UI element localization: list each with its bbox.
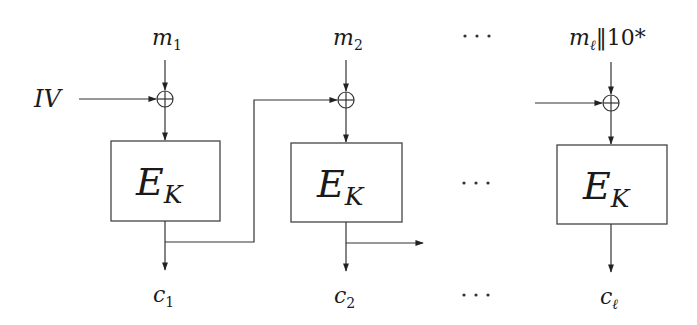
block-1: m1 IV EK c1 — [33, 25, 220, 310]
ellipsis-top — [463, 34, 490, 37]
block-2: m2 EK c2 — [291, 25, 402, 311]
input-label-1: m1 — [152, 25, 182, 53]
block-last: mℓ‖10* EK cℓ — [535, 25, 667, 312]
cbc-diagram: m1 IV EK c1 m2 EK — [0, 0, 697, 325]
xor-icon — [157, 91, 173, 107]
output-label-1: c1 — [153, 282, 174, 310]
output-label-2: c2 — [334, 283, 355, 311]
ellipsis-middle — [462, 181, 489, 184]
output-label-last: cℓ — [600, 284, 618, 312]
ellipsis-bottom — [462, 293, 489, 296]
input-label-last: mℓ‖10* — [569, 25, 646, 53]
input-label-2: m2 — [333, 25, 363, 53]
xor-icon — [603, 95, 619, 111]
xor-icon — [338, 92, 354, 108]
iv-label: IV — [33, 85, 63, 113]
